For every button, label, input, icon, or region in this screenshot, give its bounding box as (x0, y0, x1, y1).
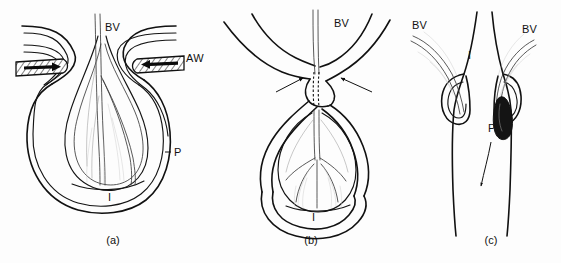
label-a-i: I (108, 191, 111, 203)
panel-b-branch-left-1 (286, 158, 315, 180)
panel-b-fil-5 (303, 178, 307, 208)
panel-c-halo-left-1 (424, 32, 457, 76)
panel-b-left-compression-arrow (276, 78, 303, 92)
panel-b-cross-band-right (330, 105, 368, 196)
panel-c-halo-left-3 (430, 62, 453, 94)
panel-b-bv-stem-2 (319, 110, 320, 160)
panel-b-bv-line-2 (318, 10, 319, 74)
label-b-i: I (312, 211, 315, 223)
panel-a-filament-5 (87, 128, 92, 182)
panel-a-airway-left (16, 59, 68, 76)
panel-b-bv-line-1 (313, 10, 315, 74)
panel-b-upper-right-outer (326, 20, 390, 81)
label-c-bv-left: BV (412, 19, 428, 31)
panel-a-airway-right (133, 56, 185, 73)
label-a-p: P (174, 146, 182, 158)
panel-caption-c: (c) (485, 234, 498, 246)
panel-caption-b: (b) (304, 234, 317, 246)
panel-b-upper-left-limb (252, 14, 315, 66)
anatomical-diagram-svg: BV AW P I (a) (0, 0, 561, 263)
figure-root: BV AW P I (a) (0, 0, 561, 263)
panel-a-bv-branch-right-1 (101, 76, 132, 185)
panel-caption-a: (a) (106, 234, 119, 246)
panel-c-flow-arrow (481, 142, 491, 186)
panel-b-cross-band-right-2 (322, 109, 358, 196)
panel-b-dashed-lumen-right (318, 72, 319, 107)
panel-b-group: BV I (b) (224, 10, 390, 246)
label-c-bv-right: BV (522, 23, 538, 35)
panel-a-bv-line-2 (100, 14, 105, 185)
panel-b-right-compression-arrow (341, 78, 372, 92)
label-a-aw: AW (186, 52, 204, 64)
panel-b-cross-band-left (260, 101, 309, 192)
panel-b-neck-right (326, 81, 335, 106)
label-b-bv: BV (334, 17, 350, 29)
label-a-bv: BV (105, 21, 121, 33)
panel-b-bv-stem-1 (314, 110, 315, 160)
panel-c-group: BV BV I P (c) (411, 12, 538, 246)
panel-b-fil-2 (321, 120, 348, 172)
panel-b-dashed-lumen-left (313, 72, 314, 107)
panel-b-lobule-base (286, 205, 350, 211)
panel-b-upper-left-outer (224, 22, 310, 79)
panel-b-neck-left (306, 79, 328, 107)
panel-b-fil-1 (286, 120, 313, 172)
panel-b-branch-right-1 (320, 158, 346, 181)
label-c-p: P (488, 122, 496, 134)
label-c-i: I (468, 49, 471, 61)
panel-a-group: BV AW P I (a) (16, 14, 204, 246)
